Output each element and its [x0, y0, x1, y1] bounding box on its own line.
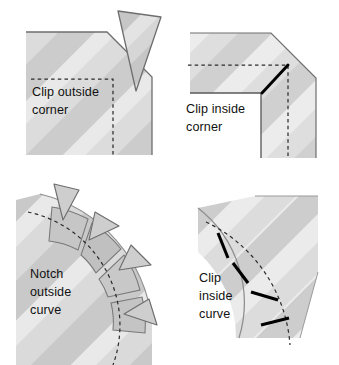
- panel-label-notch-outside-curve-line2: outside: [30, 285, 71, 299]
- panel-label-notch-outside-curve-line1: Notch: [30, 267, 63, 281]
- panel-label-clip-inside-curve-line2: inside: [199, 289, 233, 303]
- panel-label-clip-outside-corner-line2: corner: [32, 103, 68, 117]
- diagram-canvas: Clip outside corner Clip inside corner: [0, 0, 339, 365]
- panel-label-clip-inside-curve-line1: Clip: [199, 271, 221, 285]
- panel-label-clip-inside-corner-line2: corner: [186, 120, 222, 134]
- panel-clip-outside-corner: Clip outside corner: [26, 11, 161, 155]
- panel-clip-inside-corner: Clip inside corner: [186, 33, 316, 158]
- panel-label-clip-outside-corner-line1: Clip outside: [32, 85, 99, 99]
- seam-allowance-diagram: Clip outside corner Clip inside corner: [0, 0, 339, 365]
- panel-label-notch-outside-curve-line3: curve: [30, 303, 61, 317]
- fabric-body-inside-corner: [190, 33, 316, 158]
- panel-notch-outside-curve: Notch outside curve: [16, 184, 157, 365]
- panel-clip-inside-curve: Clip inside curve: [198, 196, 318, 345]
- panel-label-clip-inside-curve-line3: curve: [199, 307, 230, 321]
- panel-label-clip-inside-corner-line1: Clip inside: [186, 102, 245, 116]
